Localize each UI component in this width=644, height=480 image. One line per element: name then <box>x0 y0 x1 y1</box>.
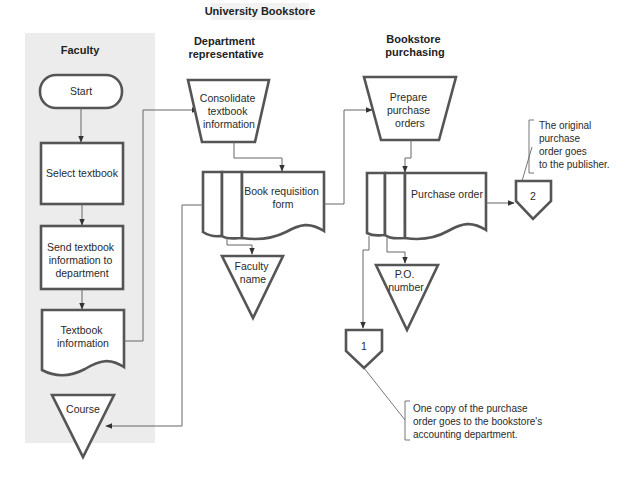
svg-text:Start: Start <box>70 85 92 97</box>
node-prepare-purchase-orders: Prepare purchase orders <box>364 77 456 140</box>
svg-text:Send textbook informatio: Send textbook information to department <box>47 241 117 279</box>
svg-text:Consolidate textbook: Consolidate textbook information <box>200 92 258 130</box>
svg-text:Textbook information: Textbook information <box>57 324 109 349</box>
edge-consolidate-to-requisition <box>234 142 282 171</box>
node-select-textbook: Select textbook <box>41 143 123 204</box>
node-connector-1: 1 <box>346 330 382 368</box>
svg-text:1: 1 <box>361 340 367 352</box>
node-start: Start <box>40 75 122 108</box>
svg-text:Course: Course <box>66 403 100 415</box>
node-po-number: P.O. number <box>376 265 438 330</box>
lane-title-department: Department representative <box>188 35 263 60</box>
lane-title-purchasing: Bookstore purchasing <box>385 33 444 58</box>
edge-po-to-connector1 <box>363 236 369 328</box>
svg-text:The original purchase: The original purchase order goes to the … <box>539 120 610 170</box>
svg-text:Faculty name: Faculty name <box>235 260 272 285</box>
node-send-textbook-info: Send textbook information to department <box>41 226 123 289</box>
annotation-accounting: One copy of the purchase order goes to t… <box>364 368 545 440</box>
node-faculty-name: Faculty name <box>222 256 283 318</box>
edge-prepare-to-po <box>405 140 411 172</box>
node-consolidate: Consolidate textbook information <box>188 80 269 142</box>
svg-text:2: 2 <box>530 190 536 202</box>
node-purchase-order: Purchase order <box>367 173 486 239</box>
svg-text:Purchase order: Purchase order <box>411 188 483 200</box>
svg-text:One copy of the purchase: One copy of the purchase order goes to t… <box>413 403 545 440</box>
edge-requisition-to-facultyname <box>227 238 252 254</box>
lane-title-faculty: Faculty <box>61 44 100 56</box>
edge-requisition-to-prepare <box>324 110 372 204</box>
edge-po-to-ponumber <box>387 238 405 263</box>
node-connector-2: 2 <box>516 181 551 219</box>
annotation-publisher: The original purchase order goes to the … <box>522 120 610 181</box>
node-book-requisition-form: Book requisition form <box>203 172 324 239</box>
flowchart: University Bookstore Faculty Department … <box>0 0 644 480</box>
diagram-title: University Bookstore <box>205 5 316 17</box>
svg-text:Select textbook: Select textbook <box>46 167 119 179</box>
